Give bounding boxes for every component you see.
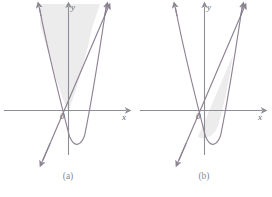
- line-b: [179, 8, 244, 160]
- graph-a: [0, 0, 136, 172]
- caption-a: (a): [0, 172, 136, 182]
- x-axis-label-a: x: [122, 113, 126, 122]
- figure-root: y x 0 (a): [0, 0, 272, 197]
- origin-label-a: 0: [60, 112, 65, 121]
- y-axis-label-a: y: [71, 3, 75, 12]
- origin-label-b: 0: [196, 112, 201, 121]
- caption-b: (b): [136, 172, 272, 182]
- panel-b: y x 0 (b): [136, 0, 272, 197]
- y-axis-label-b: y: [207, 3, 211, 12]
- panel-a: y x 0 (a): [0, 0, 136, 197]
- line-a-lower-arrow: [42, 144, 50, 163]
- x-axis-label-b: x: [258, 113, 262, 122]
- graph-b: [136, 0, 272, 172]
- line-b-lower-arrow: [178, 144, 186, 163]
- shaded-region-a: [40, 4, 100, 111]
